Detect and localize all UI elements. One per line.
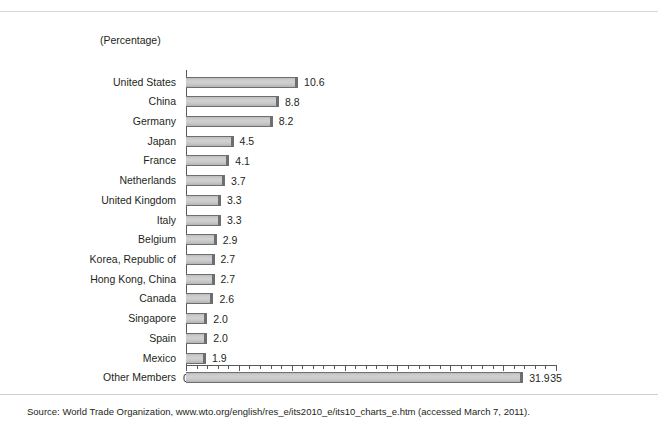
bar <box>186 293 213 304</box>
x-tick-minor <box>302 366 303 369</box>
bar <box>186 155 229 166</box>
category-label: Canada <box>0 293 182 304</box>
x-tick-major <box>292 366 293 371</box>
x-tick-minor <box>387 366 388 369</box>
x-tick-minor <box>440 366 441 369</box>
bottom-divider <box>0 394 658 395</box>
category-label: Hong Kong, China <box>0 274 182 285</box>
bar <box>186 215 221 226</box>
x-tick-minor <box>271 366 272 369</box>
category-label: Other Members <box>0 372 182 383</box>
x-tick-minor <box>419 366 420 369</box>
bar-value-label: 3.3 <box>227 215 242 226</box>
bar <box>186 274 215 285</box>
x-tick-minor <box>429 366 430 369</box>
x-tick-minor <box>461 366 462 369</box>
category-label: Mexico <box>0 353 182 364</box>
x-tick-major <box>186 366 187 371</box>
x-tick-major <box>345 366 346 371</box>
bar-value-label: 8.2 <box>279 116 294 127</box>
bar-value-label: 8.8 <box>285 97 300 108</box>
x-tick-minor <box>514 366 515 369</box>
bar <box>186 77 298 88</box>
category-label: Spain <box>0 333 182 344</box>
category-label: Italy <box>0 215 182 226</box>
x-tick-minor <box>323 366 324 369</box>
bar <box>186 353 206 364</box>
x-tick-major <box>556 366 557 371</box>
source-note: Source: World Trade Organization, www.wt… <box>27 406 530 417</box>
x-tick-label: 35 <box>550 372 562 384</box>
bar <box>186 333 207 344</box>
x-tick-minor <box>376 366 377 369</box>
bar-value-label: 4.5 <box>240 136 255 147</box>
category-label: Germany <box>0 116 182 127</box>
bar-value-label: 3.3 <box>227 195 242 206</box>
category-label: France <box>0 155 182 166</box>
bar <box>186 372 523 383</box>
x-tick-minor <box>249 366 250 369</box>
bar-value-label: 10.6 <box>304 77 324 88</box>
bar-value-label: 3.7 <box>231 176 246 187</box>
bar-value-label: 31.9 <box>529 373 549 384</box>
bar-value-label: 2.9 <box>223 235 238 246</box>
x-tick-minor <box>471 366 472 369</box>
x-tick-minor <box>493 366 494 369</box>
bar <box>186 175 225 186</box>
x-tick-minor <box>366 366 367 369</box>
category-label: China <box>0 96 182 107</box>
x-tick-minor <box>355 366 356 369</box>
category-label: Netherlands <box>0 175 182 186</box>
x-tick-minor <box>207 366 208 369</box>
x-tick-major <box>397 366 398 371</box>
x-tick-minor <box>334 366 335 369</box>
bar <box>186 116 273 127</box>
category-label: Belgium <box>0 234 182 245</box>
bar-value-label: 2.0 <box>213 333 228 344</box>
x-tick-minor <box>482 366 483 369</box>
x-tick-minor <box>228 366 229 369</box>
x-tick-major <box>450 366 451 371</box>
bar <box>186 96 279 107</box>
x-tick-minor <box>524 366 525 369</box>
bar-value-label: 4.1 <box>235 156 250 167</box>
x-tick-minor <box>260 366 261 369</box>
bar-value-label: 2.7 <box>221 274 236 285</box>
category-label: Japan <box>0 136 182 147</box>
bar-value-label: 2.6 <box>219 294 234 305</box>
x-tick-minor <box>281 366 282 369</box>
bar <box>186 313 207 324</box>
category-label: Korea, Republic of <box>0 254 182 265</box>
category-label: United States <box>0 77 182 88</box>
x-tick-minor <box>535 366 536 369</box>
x-tick-major <box>503 366 504 371</box>
x-tick-minor <box>408 366 409 369</box>
x-tick-minor <box>197 366 198 369</box>
bar-value-label: 1.9 <box>212 353 227 364</box>
bar-chart: 05101520253035 United States10.6China8.8… <box>0 0 658 432</box>
x-tick-minor <box>218 366 219 369</box>
x-tick-minor <box>313 366 314 369</box>
bar <box>186 254 215 265</box>
bar <box>186 195 221 206</box>
bar-value-label: 2.7 <box>221 254 236 265</box>
x-tick-minor <box>545 366 546 369</box>
x-axis-line <box>186 365 557 366</box>
category-label: United Kingdom <box>0 195 182 206</box>
bar-value-label: 2.0 <box>213 314 228 325</box>
category-label: Singapore <box>0 313 182 324</box>
bar <box>186 136 234 147</box>
x-tick-major <box>239 366 240 371</box>
bar <box>186 234 217 245</box>
